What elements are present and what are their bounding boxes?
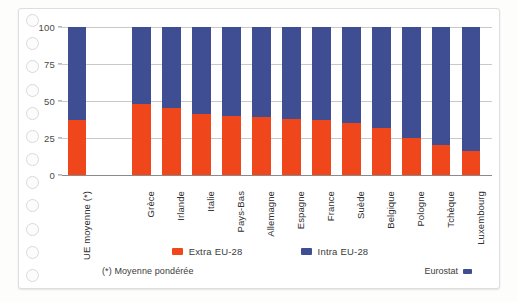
bar-segment-intra-eu28[interactable] (162, 27, 181, 108)
footnote: (*) Moyenne pondérée (102, 266, 194, 276)
y-axis-tick (58, 137, 62, 138)
binding-hole (26, 199, 39, 212)
y-axis-tick-label: 50 (44, 96, 55, 107)
binding-hole (26, 223, 39, 236)
bar-segment-intra-eu28[interactable] (68, 27, 87, 120)
chart-legend: Extra EU-28Intra EU-28 (44, 246, 496, 257)
bar-stack[interactable] (132, 27, 151, 175)
bar-stack[interactable] (252, 27, 271, 175)
bar-stack[interactable] (312, 27, 331, 175)
y-axis-tick (58, 63, 62, 64)
x-axis-category-label: Luxembourg (475, 191, 486, 245)
y-axis-tick (58, 26, 62, 27)
bar-segment-intra-eu28[interactable] (312, 27, 331, 120)
bar-segment-intra-eu28[interactable] (282, 27, 301, 119)
binding-hole (26, 37, 39, 50)
bar-segment-extra-eu28[interactable] (68, 120, 87, 175)
bar-segment-extra-eu28[interactable] (192, 114, 211, 175)
bar-stack[interactable] (68, 27, 87, 175)
plot-area: 0255075100UE moyenne (*)GrèceIrlandeItal… (62, 27, 492, 175)
bar-segment-extra-eu28[interactable] (282, 119, 301, 175)
bar-stack[interactable] (162, 27, 181, 175)
bar-segment-intra-eu28[interactable] (192, 27, 211, 114)
bar-segment-intra-eu28[interactable] (132, 27, 151, 104)
legend-label: Extra EU-28 (189, 246, 243, 257)
binding-hole (26, 269, 39, 282)
x-axis-category-label: Espagne (295, 191, 306, 229)
bar-stack[interactable] (222, 27, 241, 175)
y-axis-tick-label: 0 (50, 170, 55, 181)
source-attribution: Eurostat (424, 266, 472, 276)
x-axis-category-label: Pays-Bas (235, 191, 246, 232)
legend-item[interactable]: Intra EU-28 (301, 246, 369, 257)
legend-swatch-icon (301, 248, 312, 255)
legend-label: Intra EU-28 (318, 246, 369, 257)
bar-segment-extra-eu28[interactable] (162, 108, 181, 175)
bar-segment-extra-eu28[interactable] (402, 138, 421, 175)
x-axis-category-label: Tchèque (445, 191, 456, 228)
binding-hole (26, 14, 39, 27)
bar-segment-extra-eu28[interactable] (342, 123, 361, 175)
x-axis-category-label: Italie (205, 191, 216, 212)
binding-hole (26, 153, 39, 166)
bar-stack[interactable] (192, 27, 211, 175)
bar-segment-intra-eu28[interactable] (222, 27, 241, 116)
spiral-binding (21, 14, 43, 282)
binding-hole (26, 107, 39, 120)
bar-stack[interactable] (462, 27, 481, 175)
bar-segment-extra-eu28[interactable] (462, 151, 481, 175)
y-axis-tick-label: 100 (39, 22, 55, 33)
bar-segment-extra-eu28[interactable] (312, 120, 331, 175)
legend-item[interactable]: Extra EU-28 (172, 246, 243, 257)
bar-segment-extra-eu28[interactable] (372, 128, 391, 175)
binding-hole (26, 84, 39, 97)
bar-segment-extra-eu28[interactable] (222, 116, 241, 175)
x-axis-category-label: Irlande (175, 191, 186, 221)
gridline (62, 101, 492, 102)
y-axis-tick (58, 174, 62, 175)
x-axis-category-label: France (325, 191, 336, 221)
bar-segment-intra-eu28[interactable] (342, 27, 361, 123)
y-axis-tick (58, 100, 62, 101)
bar-stack[interactable] (432, 27, 451, 175)
bar-stack[interactable] (282, 27, 301, 175)
y-axis-tick-label: 75 (44, 59, 55, 70)
x-axis-category-label: Suède (355, 191, 366, 219)
bar-segment-extra-eu28[interactable] (432, 145, 451, 175)
chart-figure: 0255075100UE moyenne (*)GrèceIrlandeItal… (44, 14, 496, 281)
binding-hole (26, 130, 39, 143)
bar-stack[interactable] (402, 27, 421, 175)
x-axis-category-label: Grèce (145, 191, 156, 217)
legend-swatch-icon (172, 248, 183, 255)
bar-stack[interactable] (372, 27, 391, 175)
bar-segment-intra-eu28[interactable] (402, 27, 421, 138)
x-axis-category-label: Allemagne (265, 191, 276, 237)
gridline (62, 138, 492, 139)
binding-hole (26, 246, 39, 259)
x-axis-category-label: Pologne (415, 191, 426, 227)
bar-segment-intra-eu28[interactable] (432, 27, 451, 145)
source-swatch-icon (463, 269, 472, 274)
source-label: Eurostat (424, 266, 458, 276)
bar-segment-intra-eu28[interactable] (252, 27, 271, 117)
scanned-page: 0255075100UE moyenne (*)GrèceIrlandeItal… (0, 0, 517, 302)
x-axis-category-label: Belgique (385, 191, 396, 229)
bar-segment-intra-eu28[interactable] (372, 27, 391, 128)
binding-hole (26, 60, 39, 73)
y-axis-tick-label: 25 (44, 133, 55, 144)
binding-hole (26, 176, 39, 189)
bar-stack[interactable] (342, 27, 361, 175)
bar-segment-extra-eu28[interactable] (132, 104, 151, 175)
bar-segment-extra-eu28[interactable] (252, 117, 271, 175)
gridline (62, 27, 492, 28)
bar-segment-intra-eu28[interactable] (462, 27, 481, 151)
gridline (62, 64, 492, 65)
x-axis-line (62, 175, 492, 176)
